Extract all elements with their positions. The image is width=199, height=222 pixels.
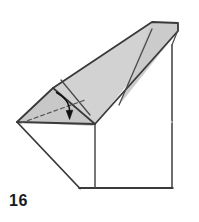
origami-figure: Origami folding step 16 bbox=[0, 0, 199, 222]
step-number-label: 16 bbox=[9, 193, 28, 209]
gray-flap-group bbox=[17, 22, 178, 126]
origami-diagram-svg: Origami folding step 16 bbox=[0, 0, 199, 222]
